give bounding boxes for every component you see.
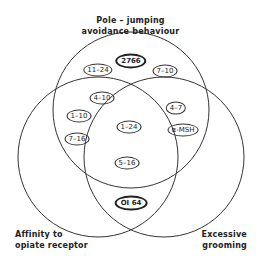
item-5-16: 5–16 [115,157,140,170]
set-label-right: Excessive grooming [202,229,248,251]
item-11-24: 11–24 [83,64,112,77]
set-label-top: Pole – jumping avoidance behaviour [0,15,261,37]
set-label-top-line1: Pole – jumping [0,15,261,26]
set-label-right-line1: Excessive [202,229,248,240]
set-label-right-line2: grooming [202,240,248,251]
item-oi-64: OI 64 [115,196,148,211]
item-7-16: 7–16 [65,133,90,146]
set-label-left: Affinity to opiate receptor [15,229,88,251]
item-1-10: 1–10 [67,110,92,123]
item-1-24: 1–24 [117,121,142,134]
item-4-10: 4–10 [90,92,115,105]
item-alpha-msh: α-MSH [168,124,199,137]
set-label-left-line1: Affinity to [15,229,88,240]
set-label-left-line2: opiate receptor [15,240,88,251]
item-7-10: 7–10 [153,65,178,78]
set-label-top-line2: avoidance behaviour [0,26,261,37]
